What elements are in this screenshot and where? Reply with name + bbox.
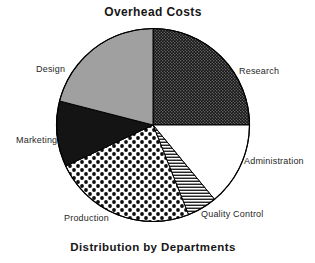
slice-label-research: Research — [239, 66, 279, 76]
chart-caption: Distribution by Departments — [0, 241, 306, 253]
chart-canvas: Overhead Costs Research Administr — [0, 0, 315, 263]
slice-label-marketing: Marketing — [16, 135, 57, 145]
pie-slice-research — [153, 29, 250, 126]
slice-label-design: Design — [36, 64, 65, 74]
slice-label-production: Production — [64, 213, 109, 223]
slice-label-administration: Administration — [244, 156, 304, 166]
slice-label-quality-control: Quality Control — [201, 209, 264, 219]
pie-chart — [0, 0, 315, 263]
pie-slices-group — [56, 28, 249, 221]
